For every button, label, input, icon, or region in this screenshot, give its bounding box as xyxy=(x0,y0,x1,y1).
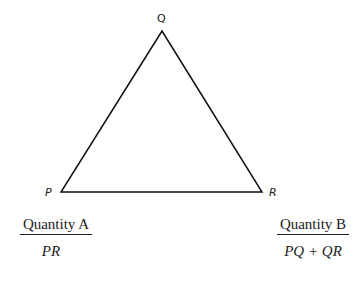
quantity-b-value: PQ + QR xyxy=(277,243,349,260)
quantity-b: Quantity B PQ + QR xyxy=(277,216,349,260)
quantity-a-title: Quantity A xyxy=(20,216,92,235)
quantity-a-value: PR xyxy=(20,243,82,260)
vertex-label-p: P xyxy=(45,186,52,199)
triangle-pqr xyxy=(61,31,262,192)
quantity-b-title: Quantity B xyxy=(277,216,349,235)
vertex-label-r: R xyxy=(269,186,277,199)
quantity-a: Quantity A PR xyxy=(20,216,92,260)
vertex-label-q: Q xyxy=(157,12,166,25)
